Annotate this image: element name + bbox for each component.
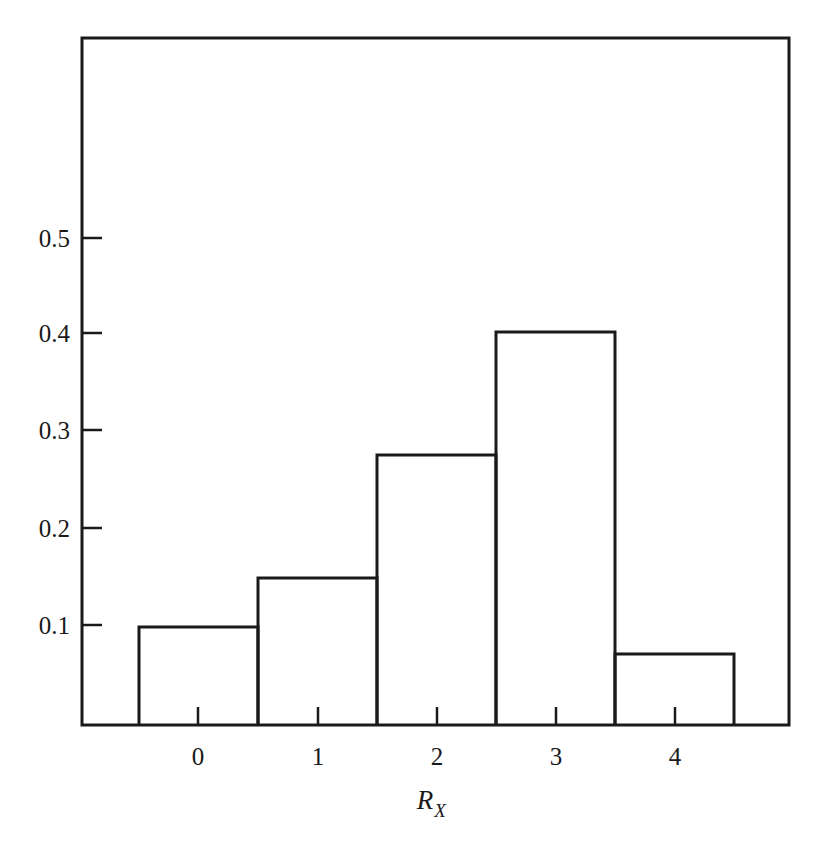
figure-background: [0, 0, 827, 841]
histogram-plot: 0.1 0.2 0.3 0.4 0.5 0 1 2 3 4 R X: [0, 0, 827, 841]
histogram-figure: 0.1 0.2 0.3 0.4 0.5 0 1 2 3 4 R X: [0, 0, 827, 841]
y-tick-label-0.5: 0.5: [39, 225, 70, 252]
x-tick-label-1: 1: [312, 743, 325, 770]
x-tick-label-3: 3: [550, 743, 563, 770]
y-tick-label-0.3: 0.3: [39, 417, 70, 444]
y-tick-label-0.2: 0.2: [39, 515, 70, 542]
x-tick-label-0: 0: [192, 743, 205, 770]
x-axis-label-base: R: [416, 785, 434, 815]
x-tick-label-4: 4: [669, 743, 682, 770]
y-tick-label-0.4: 0.4: [39, 320, 71, 347]
x-axis-label-subscript: X: [433, 800, 447, 821]
y-tick-label-0.1: 0.1: [39, 612, 70, 639]
x-tick-label-2: 2: [431, 743, 444, 770]
